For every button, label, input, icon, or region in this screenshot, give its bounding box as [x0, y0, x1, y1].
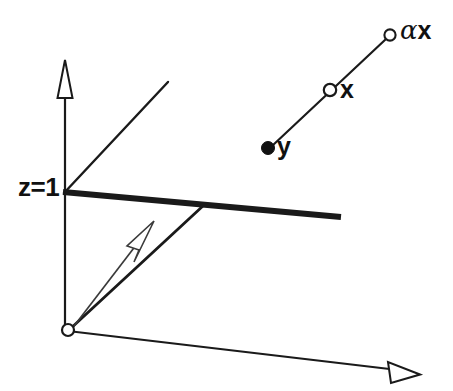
point-alpha-x-marker: [384, 29, 395, 40]
point-x-label: x: [340, 77, 354, 102]
z-plane-label: z=1: [18, 174, 59, 200]
interior-ray-shaft: [71, 240, 140, 330]
x-axis-arrowhead-icon: [388, 362, 420, 383]
x-axis-lower-right: [68, 331, 398, 370]
point-y-label: y: [277, 134, 291, 159]
z-axis-arrowhead-icon: [58, 60, 73, 98]
geometry-figure: [0, 0, 453, 391]
alpha-x-vector-letter: x: [418, 16, 432, 44]
alpha-symbol: α: [400, 15, 418, 45]
z-plane-thick-line: [63, 192, 341, 217]
alpha-x-label: αx: [400, 17, 431, 43]
point-x-marker: [324, 84, 336, 96]
origin-marker: [62, 324, 74, 336]
diagram-canvas: z=1 αx x y: [0, 0, 453, 391]
cone-edge-lower-right: [69, 205, 204, 330]
point-y-marker: [262, 142, 275, 155]
cone-edge-upper-left: [64, 82, 168, 193]
